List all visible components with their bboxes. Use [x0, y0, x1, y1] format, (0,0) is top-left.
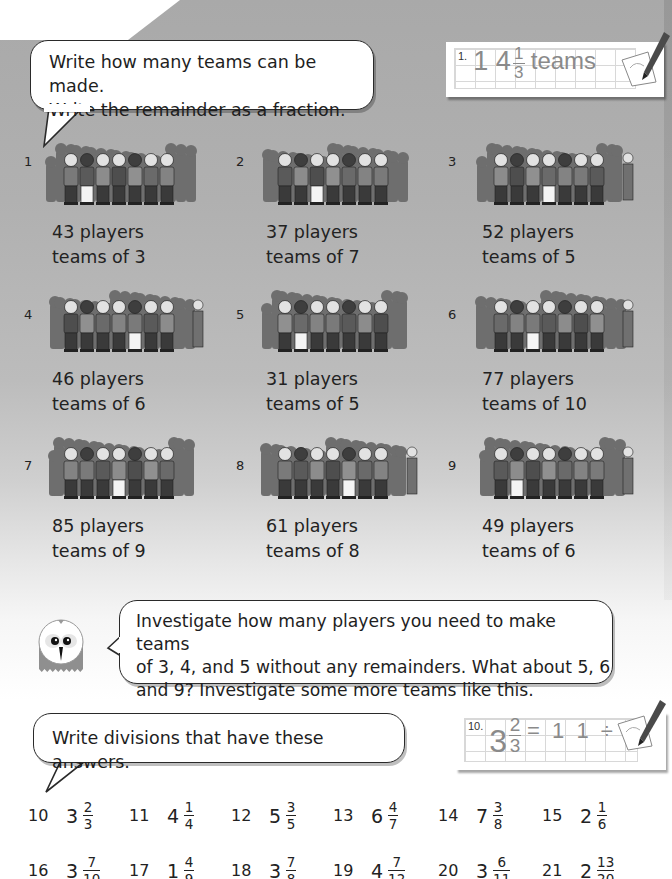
answer-number: 14 [438, 806, 468, 825]
answer-item-18: 18378 [231, 855, 296, 879]
problem-number: 7 [24, 458, 32, 473]
answer-number: 10 [28, 806, 58, 825]
answer-fraction: 712 [388, 855, 405, 879]
answer-number: 18 [231, 861, 261, 879]
answer-item-16: 163710 [28, 855, 100, 879]
crowd-of-players-illustration [40, 281, 210, 357]
crowd-of-players-illustration [40, 134, 210, 210]
answer-numerator: 4 [185, 855, 194, 869]
answer-numerator: 2 [84, 800, 93, 814]
answer-denominator: 9 [185, 872, 194, 879]
team-problem-5: 531 playersteams of 5 [232, 281, 432, 431]
bubble-tail-cover [119, 637, 125, 653]
crowd-of-players-illustration [470, 428, 640, 504]
answer-number: 11 [129, 806, 159, 825]
players-count: 61 players [266, 514, 360, 539]
players-count: 43 players [52, 220, 146, 245]
crowd-of-players-illustration [254, 134, 424, 210]
players-count: 37 players [266, 220, 360, 245]
problem-number: 6 [448, 307, 456, 322]
card-number: 1. [458, 50, 467, 62]
answer-whole: 3 [66, 805, 78, 827]
answer-item-20: 203611 [438, 855, 510, 879]
problem-text: 61 playersteams of 8 [266, 514, 360, 564]
pencil-icon [616, 700, 671, 760]
answer-item-15: 15216 [542, 800, 607, 831]
players-count: 46 players [52, 367, 146, 392]
card-numerator: 1 [514, 46, 523, 62]
crowd-of-players-illustration [470, 281, 640, 357]
players-count: 85 players [52, 514, 146, 539]
answer-denominator: 3 [84, 817, 93, 831]
team-size: teams of 5 [266, 392, 360, 417]
answer-fraction: 1320 [597, 855, 614, 879]
team-problem-8: 861 playersteams of 8 [232, 428, 432, 578]
card-numerator: 2 [510, 716, 521, 734]
answer-number: 13 [333, 806, 363, 825]
instruction-bubble-teams: Write how many teams can be made. Write … [30, 40, 374, 110]
pencil-icon [620, 30, 672, 90]
card-fraction: 2 3 [509, 716, 521, 755]
card-whole: 1 4 [473, 46, 511, 76]
answer-denominator: 8 [287, 872, 296, 879]
team-size: teams of 7 [266, 245, 360, 270]
players-count: 77 players [482, 367, 587, 392]
team-size: teams of 10 [482, 392, 587, 417]
answer-item-10: 10323 [28, 800, 93, 831]
answer-denominator: 6 [598, 817, 607, 831]
team-size: teams of 8 [266, 539, 360, 564]
answer-item-21: 2121320 [542, 855, 614, 879]
answer-fraction: 23 [83, 800, 93, 831]
card-whole: 3 [489, 726, 507, 756]
team-size: teams of 3 [52, 245, 146, 270]
answer-item-17: 17149 [129, 855, 194, 879]
players-count: 52 players [482, 220, 576, 245]
answer-denominator: 5 [287, 817, 296, 831]
answer-item-14: 14738 [438, 800, 503, 831]
answer-whole: 4 [371, 860, 383, 879]
answer-whole: 3 [476, 860, 488, 879]
answer-number: 19 [333, 861, 363, 879]
answer-numerator: 1 [598, 800, 607, 814]
answer-number: 12 [231, 806, 261, 825]
problem-text: 49 playersteams of 6 [482, 514, 576, 564]
answer-numerator: 7 [287, 855, 296, 869]
problem-number: 1 [24, 154, 32, 169]
answer-number: 20 [438, 861, 468, 879]
problem-text: 46 playersteams of 6 [52, 367, 146, 417]
players-count: 49 players [482, 514, 576, 539]
answer-numerator: 13 [597, 855, 614, 869]
answer-item-19: 194712 [333, 855, 405, 879]
team-problem-2: 237 playersteams of 7 [232, 134, 432, 284]
answer-whole: 2 [580, 860, 592, 879]
team-problem-4: 446 playersteams of 6 [18, 281, 218, 431]
team-size: teams of 6 [52, 392, 146, 417]
answer-whole: 3 [66, 860, 78, 879]
answer-number: 21 [542, 861, 572, 879]
card-denominator: 3 [510, 737, 521, 755]
bubble-tail-cover [44, 104, 94, 114]
answer-numerator: 4 [389, 800, 398, 814]
investigate-line-1: Investigate how many players you need to… [136, 610, 612, 656]
answer-denominator: 12 [388, 872, 405, 879]
owl-mascot-icon [36, 617, 86, 673]
answer-whole: 5 [269, 805, 281, 827]
problem-number: 2 [236, 154, 244, 169]
team-problem-1: 143 playersteams of 3 [18, 134, 218, 284]
answer-denominator: 20 [597, 872, 614, 879]
problem-text: 37 playersteams of 7 [266, 220, 360, 270]
team-size: teams of 9 [52, 539, 146, 564]
card-content: 1. 1 4 1 3 teams [458, 46, 596, 81]
answer-fraction: 35 [286, 800, 296, 831]
answer-numerator: 7 [392, 855, 401, 869]
problem-number: 4 [24, 307, 32, 322]
answer-item-12: 12535 [231, 800, 296, 831]
card-number: 10. [468, 720, 483, 732]
instruction-line-2: Write the remainder as a fraction. [49, 98, 373, 122]
answer-item-11: 11414 [129, 800, 194, 831]
answer-fraction: 611 [493, 855, 510, 879]
problem-number: 3 [448, 154, 456, 169]
answer-fraction: 47 [388, 800, 398, 831]
problem-text: 52 playersteams of 5 [482, 220, 576, 270]
problem-number: 9 [448, 458, 456, 473]
